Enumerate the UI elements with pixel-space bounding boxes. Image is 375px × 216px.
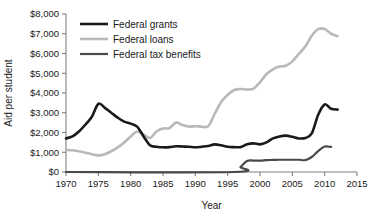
y-tick-label: $2,000 [30, 127, 59, 138]
x-axis-ticks: 1970197519801985199019952000200520102015 [55, 172, 367, 189]
y-axis-ticks: $0$1,000$2,000$3,000$4,000$5,000$6,000$7… [30, 8, 66, 177]
x-axis-title: Year [201, 200, 222, 211]
x-tick-label: 1990 [185, 178, 206, 189]
data-series-group [66, 28, 338, 172]
y-tick-label: $5,000 [30, 68, 59, 79]
legend-label: Federal grants [113, 19, 177, 30]
y-tick-label: $8,000 [30, 8, 59, 19]
x-tick-label: 2010 [314, 178, 335, 189]
y-tick-label: $4,000 [30, 87, 59, 98]
y-tick-label: $6,000 [30, 48, 59, 59]
x-tick-label: 1995 [217, 178, 238, 189]
x-tick-label: 1980 [120, 178, 141, 189]
y-tick-label: $0 [48, 166, 59, 177]
legend-label: Federal loans [113, 34, 174, 45]
y-tick-label: $7,000 [30, 28, 59, 39]
x-axis-group: 1970197519801985199019952000200520102015… [55, 172, 367, 211]
y-axis-title: Aid per student [3, 59, 14, 126]
series-line-federal-tax-benefits [66, 146, 331, 172]
x-tick-label: 1985 [152, 178, 173, 189]
x-tick-label: 2005 [282, 178, 303, 189]
y-axis-group: $0$1,000$2,000$3,000$4,000$5,000$6,000$7… [3, 8, 66, 177]
x-tick-label: 1975 [88, 178, 109, 189]
x-tick-label: 2015 [346, 178, 367, 189]
y-tick-label: $3,000 [30, 107, 59, 118]
x-tick-label: 1970 [55, 178, 76, 189]
chart-legend: Federal grantsFederal loansFederal tax b… [80, 19, 201, 60]
line-chart: $0$1,000$2,000$3,000$4,000$5,000$6,000$7… [0, 0, 375, 216]
y-tick-label: $1,000 [30, 147, 59, 158]
chart-container: $0$1,000$2,000$3,000$4,000$5,000$6,000$7… [0, 0, 375, 216]
series-line-federal-loans [66, 28, 338, 155]
legend-label: Federal tax benefits [113, 49, 201, 60]
x-tick-label: 2000 [249, 178, 270, 189]
